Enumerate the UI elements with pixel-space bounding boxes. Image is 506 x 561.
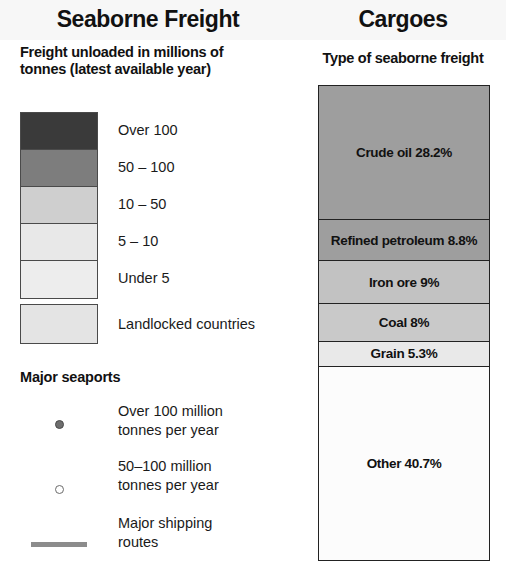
legend-label-50-100: 50 – 100 — [118, 149, 298, 186]
port-large-line2: tonnes per year — [118, 421, 298, 440]
seaports-heading: Major seaports — [20, 369, 120, 385]
routes-line2: routes — [118, 533, 298, 552]
port-medium-line1: 50–100 million — [118, 457, 298, 476]
routes-line1: Major shipping — [118, 514, 298, 533]
hollow-dot-icon — [20, 457, 98, 498]
legend-label-over-100: Over 100 — [118, 112, 298, 149]
cargo-segment-label: Crude oil 28.2% — [356, 145, 452, 160]
page-title-cargoes: Cargoes — [300, 2, 506, 36]
swatch-over-100 — [21, 113, 97, 150]
legend-panel: Freight unloaded in millions of tonnes (… — [20, 44, 296, 88]
swatch-5-10 — [21, 224, 97, 261]
cargo-segment-label: Refined petroleum 8.8% — [331, 233, 477, 248]
port-large-line1: Over 100 million — [118, 402, 298, 421]
cargo-segment-refined-petroleum: Refined petroleum 8.8% — [319, 220, 489, 262]
choropleth-swatch-stack — [20, 112, 98, 299]
legend-label-landlocked: Landlocked countries — [118, 304, 255, 344]
cargo-segment-label: Grain 5.3% — [371, 346, 438, 361]
legend-label-10-50: 10 – 50 — [118, 186, 298, 223]
cargoes-subheading: Type of seaborne freight — [300, 50, 506, 66]
swatch-10-50 — [21, 187, 97, 224]
legend-subheading: Freight unloaded in millions of tonnes (… — [20, 44, 270, 78]
legend-label-5-10: 5 – 10 — [118, 223, 298, 260]
swatch-landlocked — [20, 304, 98, 344]
cargo-segment-label: Other 40.7% — [367, 456, 442, 471]
swatch-50-100 — [21, 150, 97, 187]
filled-dot-icon — [20, 402, 98, 433]
cargo-segment-crude-oil: Crude oil 28.2% — [319, 86, 489, 220]
cargo-segment-label: Iron ore 9% — [369, 275, 439, 290]
page-title-seaborne-freight: Seaborne Freight — [0, 2, 296, 36]
cargo-segment-grain: Grain 5.3% — [319, 342, 489, 367]
cargo-segment-other: Other 40.7% — [319, 367, 489, 560]
legend-label-under-5: Under 5 — [118, 260, 298, 297]
port-medium-line2: tonnes per year — [118, 476, 298, 495]
cargo-segment-iron-ore: Iron ore 9% — [319, 261, 489, 304]
thick-line-icon — [20, 514, 98, 551]
cargo-segment-coal: Coal 8% — [319, 304, 489, 342]
swatch-under-5 — [21, 261, 97, 298]
cargo-segment-label: Coal 8% — [379, 315, 429, 330]
choropleth-legend-labels: Over 100 50 – 100 10 – 50 5 – 10 Under 5 — [118, 112, 298, 297]
cargo-stacked-bar-chart: Crude oil 28.2%Refined petroleum 8.8%Iro… — [318, 85, 490, 561]
